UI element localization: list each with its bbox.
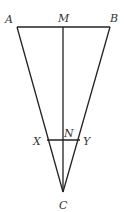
diagram-svg: A M B X N Y C	[0, 0, 129, 212]
segment-bc	[63, 27, 110, 192]
label-y: Y	[83, 135, 92, 148]
segment-ac	[17, 27, 63, 192]
label-c: C	[59, 199, 68, 212]
label-n: N	[63, 127, 74, 140]
label-m: M	[57, 12, 70, 25]
triangle-diagram: A M B X N Y C	[0, 0, 129, 212]
label-x: X	[32, 135, 42, 148]
label-b: B	[109, 12, 118, 25]
label-a: A	[4, 13, 13, 26]
